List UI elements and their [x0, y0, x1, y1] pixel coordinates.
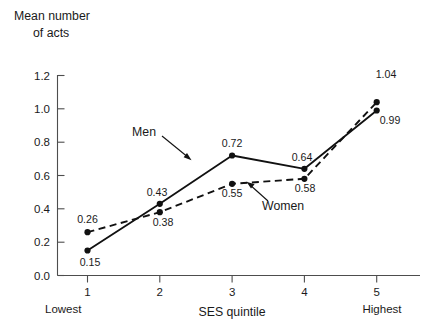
- y-tick-label-1.2: 1.2: [34, 70, 50, 82]
- series-annotation-men-arrow: [162, 136, 189, 158]
- y-axis-title-line1: Mean number: [14, 9, 90, 23]
- y-axis-title-line2: of acts: [33, 26, 69, 40]
- data-label-men-1: 0.15: [80, 256, 101, 268]
- series-line-women: [88, 102, 377, 232]
- data-point-men-5: [374, 107, 380, 113]
- data-label-women-3: 0.55: [222, 187, 243, 199]
- series-annotation-men: Men: [132, 125, 156, 139]
- data-label-men-2: 0.43: [147, 186, 168, 198]
- x-axis-highest-label: Highest: [363, 303, 403, 315]
- x-axis-lowest-label: Lowest: [45, 303, 82, 315]
- data-label-men-5: 0.99: [380, 114, 401, 126]
- x-tick-label-1: 1: [84, 286, 90, 298]
- x-tick-label-3: 3: [229, 286, 235, 298]
- ses-acts-line-chart: Mean number of acts 1.2 1.0 0.8 0.6 0.4 …: [0, 0, 431, 328]
- series-annotation-women: Women: [262, 199, 304, 213]
- data-label-women-1: 0.26: [77, 213, 98, 225]
- chart-canvas: Mean number of acts 1.2 1.0 0.8 0.6 0.4 …: [0, 0, 431, 328]
- data-point-women-3: [229, 181, 235, 187]
- y-tick-label-0.6: 0.6: [34, 170, 50, 182]
- data-point-men-1: [84, 247, 90, 253]
- x-tick-label-2: 2: [157, 286, 163, 298]
- data-label-men-4: 0.64: [292, 151, 313, 163]
- data-point-women-2: [157, 209, 163, 215]
- data-label-women-4: 0.58: [295, 182, 316, 194]
- y-tick-label-0.8: 0.8: [34, 136, 50, 148]
- x-tick-label-5: 5: [373, 286, 379, 298]
- data-point-men-3: [229, 152, 235, 158]
- y-tick-label-1.0: 1.0: [34, 103, 50, 115]
- data-label-men-3: 0.72: [222, 137, 243, 149]
- x-axis-title: SES quintile: [199, 305, 266, 319]
- data-point-men-2: [157, 201, 163, 207]
- data-point-women-5: [374, 99, 380, 105]
- series-line-men: [88, 111, 377, 251]
- data-point-women-4: [301, 176, 307, 182]
- data-point-men-4: [301, 166, 307, 172]
- y-tick-label-0.4: 0.4: [34, 203, 51, 215]
- y-tick-label-0.2: 0.2: [34, 236, 50, 248]
- y-tick-label-0.0: 0.0: [34, 270, 50, 282]
- data-point-women-1: [84, 229, 90, 235]
- data-label-women-2: 0.38: [153, 216, 174, 228]
- x-tick-label-4: 4: [301, 286, 308, 298]
- data-label-women-5: 1.04: [376, 68, 397, 80]
